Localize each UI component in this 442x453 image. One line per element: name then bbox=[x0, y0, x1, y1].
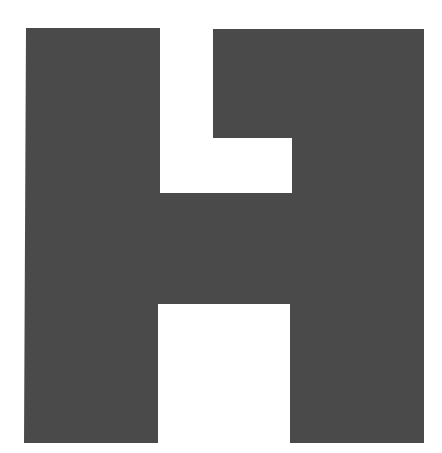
letter-h-glyph bbox=[0, 0, 442, 453]
letter-h-shape bbox=[24, 28, 424, 443]
